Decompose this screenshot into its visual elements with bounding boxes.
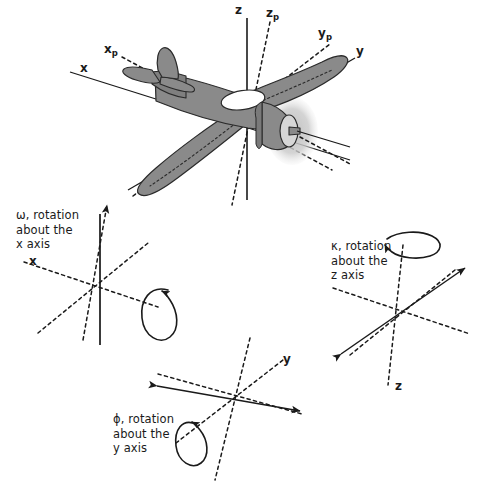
main-axis-label-y: y — [356, 44, 364, 61]
omega-rotation-arrow — [142, 289, 177, 340]
main-axis-label-zp: zp — [266, 6, 279, 23]
omega-caption-line-3: x axis — [16, 237, 79, 252]
omega-caption-line-2: about the — [16, 223, 79, 238]
main-axis-label-x: x — [80, 61, 88, 78]
kappa-rotation-arrow — [385, 232, 440, 258]
main-axis-label-z: z — [235, 3, 242, 20]
phi-axis-y-dashed — [176, 360, 283, 443]
cowling-ring — [255, 102, 262, 149]
omega-axis-x-dashed — [24, 262, 158, 307]
phi-axis-label-y: y — [283, 352, 291, 367]
main-axis-label-yp: yp — [318, 26, 332, 43]
phi-rotation-arrow — [176, 422, 207, 466]
rotation-axes-figure: x xp z zp yp y ω, rotation about the x a… — [0, 0, 488, 488]
omega-caption: ω, rotation about the x axis — [16, 208, 79, 252]
kappa-axis-label-z: z — [395, 379, 402, 394]
phi-caption-line-3: y axis — [113, 441, 174, 456]
vertical-stabilizer — [157, 48, 178, 79]
phi-caption-line-1: ϕ, rotation — [113, 412, 174, 427]
kappa-axis-a-dashed — [333, 288, 470, 334]
kappa-caption-line-2: about the — [331, 254, 391, 269]
omega-axis-dashed-vertical — [83, 205, 107, 340]
kappa-caption-line-3: z axis — [331, 268, 391, 283]
kappa-caption: κ, rotation about the z axis — [331, 239, 391, 283]
omega-axis-label-x: x — [29, 254, 37, 269]
omega-caption-line-1: ω, rotation — [16, 208, 79, 223]
kappa-caption-line-1: κ, rotation — [331, 239, 391, 254]
aircraft — [123, 48, 348, 196]
phi-axis-solid-arrow — [157, 386, 300, 411]
main-axis-label-xp: xp — [104, 42, 118, 59]
phi-diagram — [157, 338, 302, 480]
phi-caption: ϕ, rotation about the y axis — [113, 412, 174, 456]
horizontal-stabilizer-left — [123, 67, 160, 83]
phi-caption-line-2: about the — [113, 427, 174, 442]
